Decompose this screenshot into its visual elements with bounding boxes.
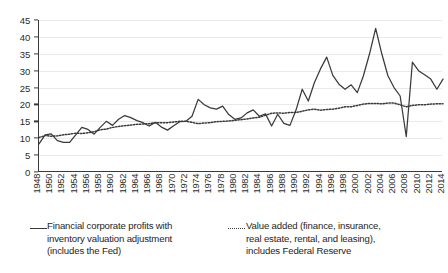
x-axis-tick-label: 2002 — [364, 174, 373, 193]
x-axis-tick-label: 1972 — [180, 174, 189, 193]
x-axis-tick-label: 1950 — [46, 174, 55, 193]
chart-legend: Financial corporate profits with invento… — [0, 220, 448, 273]
x-axis-tick-label: 2008 — [401, 174, 410, 193]
x-axis-tick-label: 1996 — [327, 174, 336, 193]
x-axis-tick-label: 1974 — [192, 174, 201, 193]
x-axis-tick-label: 2014 — [437, 174, 446, 193]
legend-label-financial-corporate-profits: Financial corporate profits with invento… — [47, 220, 172, 258]
x-axis-tick-label: 1962 — [119, 174, 128, 193]
y-axis-tick-label: 10 — [20, 133, 30, 144]
y-axis-tick-label: 25 — [20, 82, 30, 93]
x-axis-tick-label: 2010 — [413, 174, 422, 193]
x-axis-tick-label: 1956 — [82, 174, 91, 193]
x-axis-tick-label: 1982 — [241, 174, 250, 193]
x-axis-tick-label: 1948 — [33, 174, 42, 193]
solid-line-marker-icon — [30, 223, 47, 235]
legend-entry-value-added-fire: Value added (finance, insurance, real es… — [228, 220, 446, 258]
x-axis-tick-label: 1968 — [156, 174, 165, 193]
y-axis-tick-label: 40 — [20, 31, 30, 42]
legend-line-1: Financial corporate profits with — [47, 220, 172, 231]
legend-line-2: inventory valuation adjustment — [47, 233, 172, 244]
x-axis-tick-label: 2004 — [376, 174, 385, 193]
x-axis-tick-label: 1970 — [168, 174, 177, 193]
legend-label-value-added-fire: Value added (finance, insurance, real es… — [245, 220, 381, 258]
y-axis-tick-label: 35 — [20, 48, 30, 59]
x-axis-tick-label: 1978 — [217, 174, 226, 193]
x-axis: 1948195019521954195619581960196219641966… — [38, 174, 442, 218]
y-axis-tick-label: 15 — [20, 116, 30, 127]
legend-entry-financial-corporate-profits: Financial corporate profits with invento… — [30, 220, 245, 258]
y-axis-tick-label: 30 — [20, 65, 30, 76]
x-axis-tick-label: 1954 — [70, 174, 79, 193]
x-axis-tick-label: 1964 — [131, 174, 140, 193]
x-axis-tick-label: 1958 — [95, 174, 104, 193]
x-axis-tick-label: 1976 — [205, 174, 214, 193]
legend-line-3: (includes the Fed) — [47, 245, 121, 256]
y-axis-tick-label: 0 — [25, 167, 30, 178]
series-lines — [39, 20, 443, 172]
x-axis-tick-label: 1984 — [254, 174, 263, 193]
legend-line-1: Value added (finance, insurance, — [246, 220, 381, 231]
y-axis: 051015202530354045 — [0, 0, 38, 192]
y-axis-tick-label: 45 — [20, 15, 30, 26]
legend-line-2: real estate, rental, and leasing), — [246, 233, 375, 244]
series-line-financial-corporate-profits — [39, 28, 443, 144]
x-axis-tick-label: 1988 — [278, 174, 287, 193]
x-axis-tick-label: 1952 — [58, 174, 67, 193]
x-axis-tick-label: 1980 — [229, 174, 238, 193]
plot-area — [38, 20, 442, 172]
x-axis-tick-label: 1960 — [107, 174, 116, 193]
x-axis-tick-label: 1994 — [315, 174, 324, 193]
x-axis-tick-label: 2000 — [352, 174, 361, 193]
x-axis-tick-label: 1966 — [144, 174, 153, 193]
x-axis-tick-label: 1998 — [339, 174, 348, 193]
x-axis-tick-label: 1986 — [266, 174, 275, 193]
chart-container: 051015202530354045 194819501952195419561… — [0, 0, 448, 273]
x-axis-tick-label: 1992 — [303, 174, 312, 193]
y-axis-tick-label: 5 — [25, 150, 30, 161]
x-axis-tick-label: 2012 — [425, 174, 434, 193]
dotted-line-marker-icon — [228, 223, 245, 235]
x-axis-tick-label: 1990 — [290, 174, 299, 193]
x-axis-tick-label: 2006 — [388, 174, 397, 193]
y-axis-tick-label: 20 — [20, 99, 30, 110]
series-line-value-added-fire — [39, 103, 443, 137]
legend-line-3: includes Federal Reserve — [246, 245, 351, 256]
